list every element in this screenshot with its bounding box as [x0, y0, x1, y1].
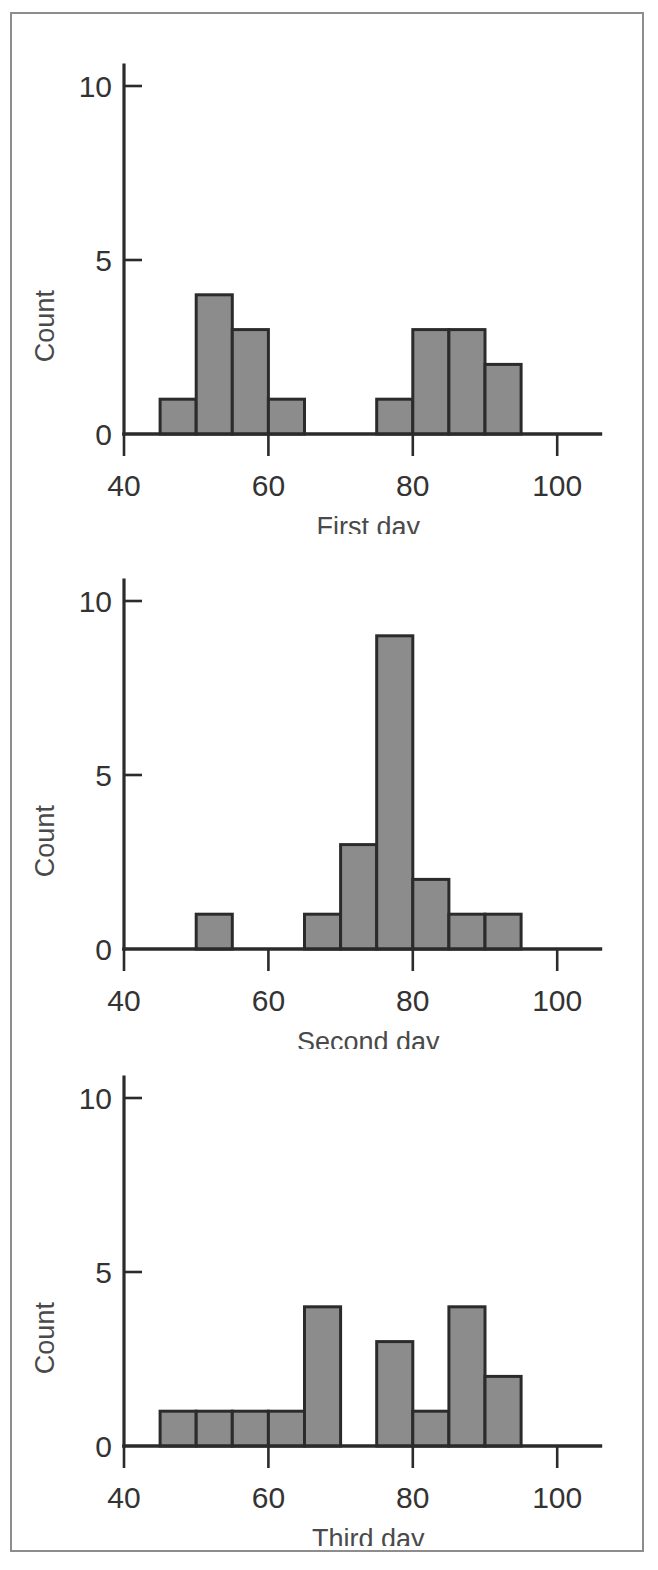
histogram-bar [268, 399, 304, 434]
y-tick-label: 5 [95, 759, 112, 792]
y-axis-title: Count [30, 805, 60, 878]
x-tick-label: 100 [532, 469, 582, 502]
histogram-bar [377, 636, 413, 949]
x-tick-label: 80 [396, 469, 429, 502]
histogram-plot-1: 0510406080100CountSecond day [12, 529, 646, 1049]
y-axis-title: Count [30, 1302, 60, 1375]
histogram-bar [485, 914, 521, 949]
y-axis-title: Count [30, 290, 60, 363]
figure-page: 0510406080100CountFirst day 051040608010… [0, 0, 658, 1570]
histogram-bar [196, 914, 232, 949]
y-tick-label: 10 [79, 70, 112, 103]
y-tick-label: 5 [95, 244, 112, 277]
histogram-bar [160, 399, 196, 434]
x-tick-label: 60 [252, 984, 285, 1017]
histogram-bar [160, 1411, 196, 1446]
x-tick-label: 100 [532, 1481, 582, 1514]
histogram-bar [413, 1411, 449, 1446]
y-tick-label: 10 [79, 585, 112, 618]
histogram-bar [232, 330, 268, 434]
histogram-bar [196, 295, 232, 434]
y-tick-label: 0 [95, 933, 112, 966]
y-tick-label: 0 [95, 1430, 112, 1463]
histogram-plot-2: 0510406080100CountThird day [12, 1026, 646, 1546]
histogram-bar [449, 914, 485, 949]
histogram-bar [413, 879, 449, 949]
x-tick-label: 40 [107, 984, 140, 1017]
x-tick-label: 40 [107, 1481, 140, 1514]
y-tick-label: 5 [95, 1256, 112, 1289]
histogram-bar [377, 399, 413, 434]
histogram-plot-0: 0510406080100CountFirst day [12, 14, 646, 534]
histogram-bar [305, 1307, 341, 1446]
histogram-panel-first-day: 0510406080100CountFirst day [12, 14, 646, 534]
x-axis-title: Third day [312, 1524, 425, 1546]
histogram-bar [485, 364, 521, 434]
histogram-bar [305, 914, 341, 949]
x-tick-label: 80 [396, 1481, 429, 1514]
histogram-bar [485, 1376, 521, 1446]
histogram-bar [341, 845, 377, 949]
x-tick-label: 60 [252, 469, 285, 502]
x-tick-label: 80 [396, 984, 429, 1017]
y-tick-label: 10 [79, 1082, 112, 1115]
histogram-bar [196, 1411, 232, 1446]
histogram-bar [449, 1307, 485, 1446]
histogram-panel-second-day: 0510406080100CountSecond day [12, 529, 646, 1039]
histogram-bar [377, 1342, 413, 1446]
x-tick-label: 60 [252, 1481, 285, 1514]
x-tick-label: 100 [532, 984, 582, 1017]
histogram-bar [232, 1411, 268, 1446]
histogram-bar [413, 330, 449, 434]
x-tick-label: 40 [107, 469, 140, 502]
figure-frame-border: 0510406080100CountFirst day 051040608010… [10, 12, 644, 1552]
histogram-bar [268, 1411, 304, 1446]
histogram-bar [449, 330, 485, 434]
histogram-panel-third-day: 0510406080100CountThird day [12, 1026, 646, 1546]
y-tick-label: 0 [95, 418, 112, 451]
